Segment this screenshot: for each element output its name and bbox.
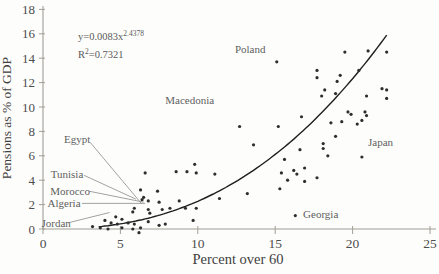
country-label-egypt: Egypt	[64, 133, 90, 145]
data-point	[168, 207, 171, 210]
data-point	[286, 179, 289, 182]
y-tick-label: 8	[29, 124, 36, 139]
data-point	[213, 173, 216, 176]
x-tick-label: 25	[423, 236, 437, 251]
data-point	[184, 207, 187, 210]
data-point	[91, 225, 94, 228]
data-point	[346, 110, 349, 113]
data-point	[292, 169, 295, 172]
data-point	[380, 87, 383, 90]
country-label-georgia: Georgia	[303, 208, 338, 220]
country-label-jordan: Jordan	[41, 217, 71, 229]
data-point	[142, 196, 145, 199]
data-point	[323, 88, 326, 91]
data-point	[195, 171, 198, 174]
data-point	[336, 80, 339, 83]
data-point	[195, 207, 198, 210]
data-point	[103, 219, 106, 222]
data-point	[366, 49, 369, 52]
data-point	[275, 60, 278, 63]
country-label-macedonia: Macedonia	[165, 94, 214, 106]
data-point	[277, 125, 280, 128]
y-tick-label: 4	[29, 173, 36, 188]
data-point	[147, 208, 150, 211]
y-tick-label: 12	[22, 75, 35, 90]
data-point	[320, 94, 323, 97]
y-tick-label: 2	[29, 197, 36, 212]
data-point	[315, 69, 318, 72]
scatter-chart-figure: 0510152025024681012141618Percent over 60…	[0, 0, 439, 274]
data-point	[385, 97, 388, 100]
data-point	[322, 142, 325, 145]
data-point	[144, 171, 147, 174]
data-point	[114, 215, 117, 218]
data-point	[343, 51, 346, 54]
data-point	[385, 51, 388, 54]
country-label-japan: Japan	[368, 136, 394, 148]
data-point	[334, 92, 337, 95]
pensions-vs-aging-scatter-plot: 0510152025024681012141618Percent over 60…	[0, 0, 439, 274]
data-point	[360, 119, 363, 122]
data-point	[278, 187, 281, 190]
data-point	[349, 113, 352, 116]
data-point	[120, 218, 123, 221]
trendline-equation: y=0.0083x2.4378	[78, 29, 144, 42]
y-tick-label: 0	[29, 222, 36, 237]
data-point	[137, 231, 140, 234]
data-point	[99, 226, 102, 229]
data-point	[329, 121, 332, 124]
data-point	[120, 226, 123, 229]
data-point	[218, 197, 221, 200]
data-point	[339, 74, 342, 77]
data-point	[238, 125, 241, 128]
y-tick-label: 6	[29, 148, 36, 163]
data-point	[315, 76, 318, 79]
data-point	[139, 226, 142, 229]
data-point	[158, 201, 161, 204]
x-tick-label: 15	[268, 236, 282, 251]
x-tick-label: 10	[191, 236, 205, 251]
data-point	[303, 166, 306, 169]
data-point	[252, 143, 255, 146]
data-point	[110, 221, 113, 224]
data-point	[193, 163, 196, 166]
y-tick-label: 10	[22, 100, 35, 115]
y-tick-label: 14	[22, 51, 36, 66]
y-tick-label: 18	[22, 2, 35, 17]
data-point	[322, 147, 325, 150]
data-point	[148, 212, 151, 215]
x-tick-label: 5	[117, 236, 124, 251]
data-point	[365, 114, 368, 117]
data-point	[116, 223, 119, 226]
trendline-curve	[99, 35, 387, 227]
data-point	[326, 154, 329, 157]
x-tick-label: 20	[346, 236, 360, 251]
country-label-poland: Poland	[235, 43, 266, 55]
y-axis-title: Pensions as % of GDP	[0, 57, 14, 179]
data-point	[164, 223, 167, 226]
data-point	[303, 180, 306, 183]
data-point	[385, 88, 388, 91]
data-point	[298, 148, 301, 151]
x-axis-title: Percent over 60	[193, 251, 284, 267]
data-point	[246, 192, 249, 195]
data-point	[334, 135, 337, 138]
country-label-tunisia: Tunisia	[51, 168, 84, 180]
data-point	[161, 208, 164, 211]
country-label-morocco: Morocco	[50, 185, 90, 197]
data-point	[106, 227, 109, 230]
data-point	[175, 170, 178, 173]
data-point	[357, 69, 360, 72]
data-point	[363, 110, 366, 113]
data-point	[158, 224, 161, 227]
country-label-algeria: Algeria	[48, 197, 81, 209]
leader-line-egypt	[90, 142, 141, 203]
data-point	[365, 94, 368, 97]
data-point	[147, 199, 150, 202]
data-point	[131, 227, 134, 230]
data-point	[133, 223, 136, 226]
x-tick-label: 0	[40, 236, 47, 251]
data-point	[139, 188, 142, 191]
data-point	[315, 176, 318, 179]
r-squared-value: R2=0.7321	[78, 47, 124, 60]
